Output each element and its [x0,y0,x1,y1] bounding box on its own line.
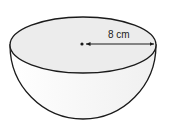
center-point [80,42,83,45]
radius-label: 8 cm [108,29,130,40]
hemisphere-diagram: 8 cm [0,0,170,131]
